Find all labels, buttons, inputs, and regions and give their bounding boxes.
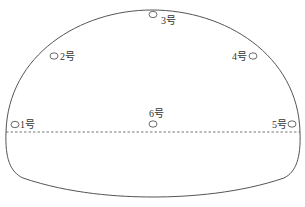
measurement-point-3-label: 3号 [161,15,176,26]
tunnel-invert-outline [23,178,284,197]
tunnel-left-wall [6,132,23,178]
measurement-point-1-marker [11,121,19,127]
measurement-point-6-label: 6号 [149,108,164,119]
measurement-point-5-marker [288,121,296,127]
measurement-point-6-marker [149,121,157,127]
measurement-point-2-label: 2号 [60,51,75,62]
tunnel-cross-section-diagram: 3号 2号 4号 1号 6号 5号 [0,0,305,207]
measurement-point-5-label: 5号 [272,119,287,130]
tunnel-right-wall [284,132,300,178]
measurement-point-1-label: 1号 [20,119,35,130]
measurement-point-4-marker [249,53,257,59]
measurement-point-4-label: 4号 [232,51,247,62]
measurement-point-2-marker [50,53,58,59]
measurement-point-3-marker [149,11,157,17]
